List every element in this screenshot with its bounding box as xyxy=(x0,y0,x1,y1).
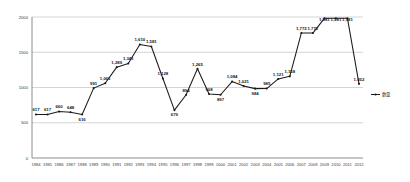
data-point-marker xyxy=(300,32,302,34)
data-point-label: 617 xyxy=(32,107,40,112)
x-tick-label: 1987 xyxy=(66,162,76,167)
data-point-label: 1,061 xyxy=(100,76,111,81)
data-point-label: 648 xyxy=(67,105,75,110)
x-tick-label: 1997 xyxy=(181,162,191,167)
y-tick-label: 1500 xyxy=(19,50,29,55)
data-point-label: 1,981 xyxy=(331,17,342,22)
x-tick-label: 1984 xyxy=(31,162,41,167)
x-tick-label: 1996 xyxy=(170,162,180,167)
x-tick-label: 1992 xyxy=(124,162,134,167)
x-tick-label: 1993 xyxy=(135,162,145,167)
data-point-marker xyxy=(289,75,291,77)
data-point-label: 1,981 xyxy=(342,17,353,22)
data-point-marker xyxy=(231,81,233,83)
x-tick-label: 1999 xyxy=(204,162,214,167)
data-point-label: 1,052 xyxy=(354,77,365,82)
data-point-marker xyxy=(150,45,152,47)
data-point-marker xyxy=(254,88,256,90)
data-point-marker xyxy=(266,88,268,90)
data-point-marker xyxy=(173,109,175,111)
data-point-label: 984 xyxy=(252,91,260,96)
data-point-label: 1,021 xyxy=(238,79,249,84)
x-tick-label: 1989 xyxy=(89,162,99,167)
x-tick-label: 1995 xyxy=(158,162,168,167)
data-point-label: 1,341 xyxy=(123,56,134,61)
legend-label-text: 数量 xyxy=(382,91,391,98)
data-point-marker xyxy=(196,68,198,70)
data-point-marker xyxy=(139,43,141,45)
line-chart: 0500100015002000 19841985198619871988198… xyxy=(0,0,410,182)
data-point-marker xyxy=(46,113,48,115)
data-point-label: 1,128 xyxy=(158,71,169,76)
data-point-marker xyxy=(58,110,60,112)
data-point-label: 1,289 xyxy=(111,60,122,65)
data-point-label: 897 xyxy=(217,97,225,102)
x-axis-tick-labels: 1984198519861987198819891990199119921993… xyxy=(31,162,364,167)
x-tick-label: 1985 xyxy=(43,162,53,167)
data-point-label: 660 xyxy=(55,104,63,109)
x-tick-label: 1990 xyxy=(101,162,111,167)
data-point-label: 1,265 xyxy=(192,62,203,67)
x-tick-label: 1988 xyxy=(78,162,88,167)
y-tick-label: 500 xyxy=(21,120,29,125)
y-tick-label: 2000 xyxy=(19,15,29,20)
y-tick-label: 1000 xyxy=(19,85,29,90)
data-point-marker xyxy=(116,66,118,68)
data-point-label: 679 xyxy=(171,112,179,117)
x-tick-label: 2011 xyxy=(343,162,353,167)
data-point-label: 1,772 xyxy=(307,26,318,31)
chart-screenshot: 0500100015002000 19841985198619871988198… xyxy=(0,0,410,182)
data-point-marker xyxy=(93,87,95,89)
data-point-marker xyxy=(312,32,314,34)
data-point-marker xyxy=(220,94,222,96)
data-point-marker xyxy=(104,82,106,84)
data-point-label: 1,581 xyxy=(146,39,157,44)
x-tick-label: 2010 xyxy=(331,162,341,167)
data-point-marker xyxy=(208,93,210,95)
data-point-label: 908 xyxy=(205,87,213,92)
data-point-label: 894 xyxy=(182,88,190,93)
data-point-label: 1,981 xyxy=(319,17,330,22)
legend-dot-marker xyxy=(374,93,376,95)
data-point-marker xyxy=(185,94,187,96)
data-point-label: 1,772 xyxy=(296,26,307,31)
x-tick-label: 1991 xyxy=(112,162,122,167)
x-tick-label: 2001 xyxy=(228,162,238,167)
x-tick-label: 2003 xyxy=(251,162,261,167)
x-tick-label: 2012 xyxy=(354,162,364,167)
x-tick-label: 2005 xyxy=(274,162,284,167)
x-tick-label: 1998 xyxy=(193,162,203,167)
data-point-marker xyxy=(243,85,245,87)
x-tick-label: 1994 xyxy=(147,162,157,167)
data-point-label: 616 xyxy=(79,117,87,122)
x-tick-label: 2000 xyxy=(216,162,226,167)
x-tick-label: 2002 xyxy=(239,162,249,167)
data-point-label: 617 xyxy=(44,107,52,112)
data-point-label: 1,121 xyxy=(273,72,284,77)
data-point-marker xyxy=(81,114,83,116)
data-point-marker xyxy=(70,111,72,113)
x-tick-label: 2007 xyxy=(297,162,307,167)
x-tick-label: 1986 xyxy=(55,162,65,167)
data-point-label: 1,084 xyxy=(227,74,238,79)
data-point-label: 1,158 xyxy=(284,69,295,74)
data-point-marker xyxy=(35,113,37,115)
data-point-marker xyxy=(358,83,360,85)
x-tick-label: 2009 xyxy=(320,162,330,167)
x-tick-label: 2006 xyxy=(285,162,295,167)
x-tick-label: 2008 xyxy=(308,162,318,167)
data-point-marker xyxy=(162,77,164,79)
data-point-label: 985 xyxy=(263,81,271,86)
data-point-label: 991 xyxy=(90,81,98,86)
x-tick-label: 2004 xyxy=(262,162,272,167)
data-point-marker xyxy=(277,78,279,80)
data-point-marker xyxy=(127,62,129,64)
data-point-label: 1,610 xyxy=(134,37,145,42)
